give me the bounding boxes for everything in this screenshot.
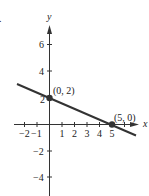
y-tick-label: −4 [33, 172, 44, 183]
x-tick-label: 4 [97, 128, 102, 139]
x-tick-labels: −2 −1 1 2 3 4 5 [19, 128, 115, 139]
x-tick-label: −2 [19, 128, 30, 139]
line-graph: . y x −2 −1 1 2 3 4 5 6 4 2 −2 −4 [0, 0, 149, 196]
x-tick-label: −1 [31, 128, 42, 139]
point-label-x-intercept: (5, 0) [114, 112, 136, 124]
y-axis-arrow-icon [47, 25, 52, 34]
x-tick-label: 1 [60, 128, 65, 139]
point-y-intercept [46, 95, 52, 101]
y-tick-label: 4 [39, 66, 44, 77]
x-axis-label: x [142, 118, 148, 129]
problem-marker: . [0, 13, 2, 24]
x-tick-label: 5 [110, 128, 115, 139]
x-tick-label: 2 [72, 128, 77, 139]
y-tick-labels: 6 4 2 −2 −4 [33, 39, 45, 183]
y-tick-label: 6 [39, 39, 44, 50]
y-tick-label: −2 [33, 146, 44, 157]
x-tick-label: 3 [85, 128, 90, 139]
y-axis-label: y [46, 11, 52, 22]
point-label-y-intercept: (0, 2) [53, 85, 75, 97]
